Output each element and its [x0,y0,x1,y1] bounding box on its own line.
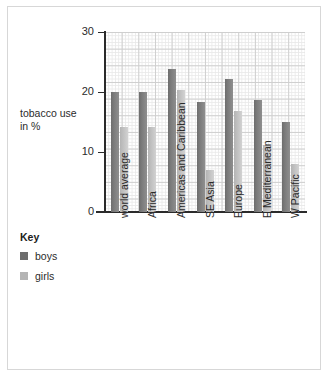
y-tick-label-10: 10 [68,145,94,157]
x-label-europe: Europe [232,184,244,218]
x-label-world-average: world average [118,152,130,218]
y-tick-20 [98,92,105,93]
legend-label-girls: girls [35,270,54,282]
x-label-w-pacific: W Pacific [289,174,301,218]
legend-item-girls: girls [20,270,100,282]
y-tick-label-0: 0 [68,205,94,217]
x-label-americas-and-caribbean: Americas and Caribbean [175,102,187,218]
legend-swatch-boys [20,252,28,260]
x-label-se-asia: SE Asia [204,181,216,218]
legend-swatch-girls [20,272,28,280]
x-label-e-mediterranean: E Mediterranean [261,140,273,218]
chart-figure: tobacco use in % Key boys girls 0102030 … [0,0,330,379]
legend-label-boys: boys [35,250,57,262]
y-tick-label-30: 30 [68,25,94,37]
y-tick-label-20: 20 [68,85,94,97]
y-tick-0 [98,212,105,213]
y-axis-line [104,31,106,213]
y-axis-title-line-2: in % [20,120,102,133]
legend-title: Key [20,231,100,243]
chart-legend: Key boys girls [20,231,100,290]
y-tick-10 [98,152,105,153]
legend-item-boys: boys [20,250,100,262]
y-tick-30 [98,32,105,33]
y-axis-title: tobacco use in % [20,107,102,133]
y-axis-title-line-1: tobacco use [20,107,102,120]
x-label-africa: Africa [146,191,158,218]
